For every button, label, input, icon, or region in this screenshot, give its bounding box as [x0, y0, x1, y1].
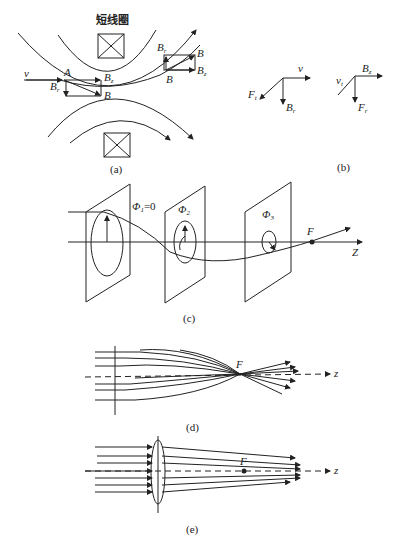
label-F: F	[239, 455, 247, 467]
panel-e: F z (e)	[85, 436, 339, 536]
field-line	[70, 121, 170, 143]
caption-d: (d)	[186, 421, 199, 434]
label-Br-right: Br	[157, 41, 167, 55]
coil-cross-section-bottom	[104, 133, 130, 157]
label-Fr: Fr	[357, 101, 368, 115]
label-Br: Br	[286, 101, 296, 115]
label-v: v	[24, 67, 29, 79]
panel-c: Φ1=0 Φ2 Φ3 F Z (c)	[68, 182, 362, 325]
label-Br: Br	[50, 80, 60, 94]
label-F: F	[235, 358, 243, 370]
label-v: v	[298, 62, 303, 74]
label-z: z	[333, 367, 339, 379]
label-vt: vt	[336, 74, 344, 88]
focal-point	[242, 469, 247, 474]
panel-d: F z (d)	[85, 346, 339, 434]
label-F: F	[306, 225, 314, 237]
focal-point	[310, 240, 315, 245]
label-z: z	[333, 464, 339, 476]
panel-a: 短线圈 v A Bz Br B	[18, 13, 207, 176]
electron-lens-figure: 短线圈 v A Bz Br B	[0, 0, 398, 552]
label-B-right-bottom: B	[166, 73, 173, 85]
label-Bz: Bz	[104, 71, 114, 85]
label-phi2: Φ2	[178, 203, 190, 217]
field-line	[58, 30, 156, 71]
label-B-right: B	[197, 47, 204, 59]
caption-e: (e)	[186, 523, 199, 536]
coil-title: 短线圈	[96, 13, 129, 27]
label-Bz: Bz	[362, 62, 372, 76]
panel-b: v Br Ft Bz vt Fr (b)	[247, 62, 382, 174]
caption-c: (c)	[183, 312, 196, 325]
label-phi1: Φ1=0	[132, 200, 156, 214]
label-phi3: Φ3	[262, 208, 274, 222]
label-B: B	[104, 89, 111, 101]
label-Z: Z	[352, 246, 359, 258]
caption-a: (a)	[110, 163, 123, 176]
coil-cross-section-top	[98, 34, 124, 58]
caption-b: (b)	[337, 161, 350, 174]
label-A: A	[63, 66, 71, 78]
label-Ft: Ft	[247, 88, 258, 102]
label-Bz-right: Bz	[197, 64, 207, 78]
